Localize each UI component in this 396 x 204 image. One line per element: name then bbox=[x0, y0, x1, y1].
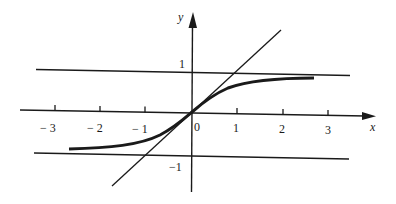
x-tick-label-2: 2 bbox=[279, 122, 285, 136]
upper-asymptote-line bbox=[36, 70, 350, 76]
tanh-diagram: y x − 3 − 2 − 1 0 1 2 3 1 −1 bbox=[0, 0, 396, 204]
x-tick-label-0: 0 bbox=[194, 120, 200, 134]
x-tick-label-1: 1 bbox=[233, 121, 239, 135]
y-tick-label-1: 1 bbox=[179, 57, 185, 71]
y-axis-arrow-icon bbox=[189, 12, 198, 28]
x-axis-label: x bbox=[369, 120, 376, 134]
x-tick-label-neg3: − 3 bbox=[40, 121, 56, 135]
x-tick-label-neg1: − 1 bbox=[132, 122, 148, 136]
y-axis-label: y bbox=[177, 10, 184, 24]
x-tick-label-3: 3 bbox=[325, 123, 331, 137]
y-axis bbox=[192, 24, 193, 192]
x-axis-arrow-icon bbox=[362, 112, 376, 120]
x-tick-label-neg2: − 2 bbox=[87, 121, 103, 135]
y-tick-label-neg1: −1 bbox=[169, 160, 182, 174]
